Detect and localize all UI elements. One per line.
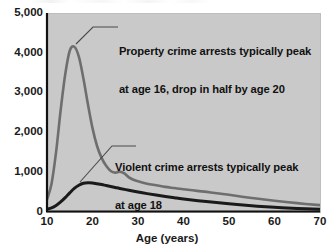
annotation-violent-crime: Violent crime arrests typically peak at …: [115, 136, 298, 237]
annotation-violent-line2: at age 18: [115, 199, 298, 212]
leader-line-property: [76, 27, 118, 44]
annotation-violent-line1: Violent crime arrests typically peak: [115, 161, 298, 174]
annotation-property-line1: Property crime arrests typically peak: [119, 45, 311, 58]
chart-figure: 5,000 4,000 3,000 2,000 1,000 0 10 20 30…: [0, 0, 334, 252]
annotation-property-crime: Property crime arrests typically peak at…: [119, 20, 311, 121]
annotation-property-line2: at age 16, drop in half by age 20: [119, 83, 311, 96]
